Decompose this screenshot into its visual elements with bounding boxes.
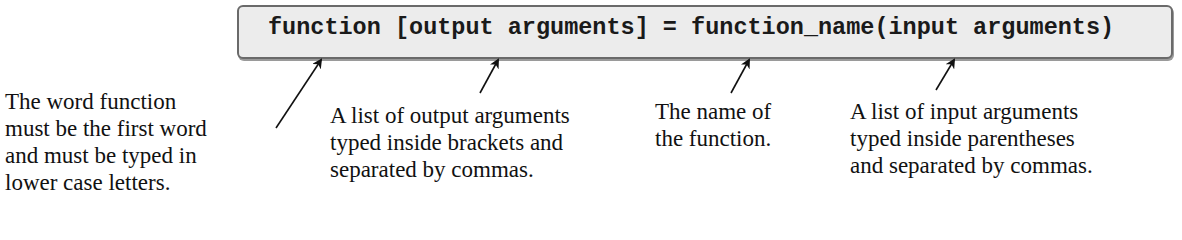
function-name-note: The name of the function.: [655, 98, 771, 152]
output-args-note: A list of output arguments typed inside …: [330, 102, 570, 183]
keyword-note: The word function must be the first word…: [5, 88, 207, 196]
arrow-input-args-icon: [936, 60, 954, 90]
arrow-output-args-icon: [480, 60, 498, 93]
arrow-function-name-icon: [731, 60, 749, 93]
arrow-keyword-icon: [276, 60, 321, 128]
input-args-note: A list of input arguments typed inside p…: [850, 98, 1093, 179]
